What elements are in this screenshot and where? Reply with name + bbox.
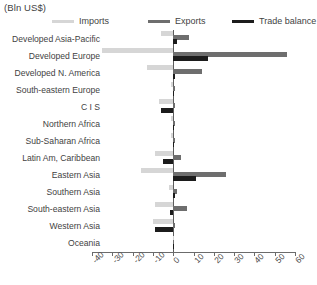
bar-imports xyxy=(153,219,173,224)
legend-item-trade-balance: Trade balance xyxy=(232,14,316,28)
bar-row xyxy=(92,150,317,167)
category-label: Sub-Saharan Africa xyxy=(0,136,100,146)
bar-row xyxy=(92,64,317,81)
bar-trade-balance xyxy=(173,125,174,130)
category-label: Developed N. America xyxy=(0,68,100,78)
x-axis-tick-label: 0 xyxy=(171,255,181,265)
legend-swatch-icon xyxy=(52,20,74,23)
bar-row xyxy=(92,47,317,64)
bar-row xyxy=(92,132,317,149)
bar-exports xyxy=(173,103,175,108)
bar-row xyxy=(92,218,317,235)
legend-label: Trade balance xyxy=(259,16,316,26)
category-label: Oceania xyxy=(0,238,100,248)
chart-legend: ImportsExportsTrade balance xyxy=(52,14,314,28)
category-label: Western Asia xyxy=(0,221,100,231)
bar-row xyxy=(92,30,317,47)
bar-trade-balance xyxy=(173,56,208,61)
bar-trade-balance xyxy=(173,39,177,44)
bar-trade-balance xyxy=(173,193,175,198)
trade-balance-chart: (Bln US$) ImportsExportsTrade balance De… xyxy=(0,0,317,285)
legend-swatch-icon xyxy=(148,20,170,23)
category-label: Developed Europe xyxy=(0,51,100,61)
category-label: Northern Africa xyxy=(0,119,100,129)
bar-trade-balance xyxy=(173,74,175,79)
bar-imports xyxy=(155,202,173,207)
bar-row xyxy=(92,98,317,115)
bar-trade-balance xyxy=(161,108,173,113)
legend-swatch-icon xyxy=(232,20,254,23)
bar-trade-balance xyxy=(163,159,173,164)
legend-item-exports: Exports xyxy=(148,14,206,28)
category-label: Eastern Asia xyxy=(0,170,100,180)
category-label: Developed Asia-Pacific xyxy=(0,34,100,44)
bar-row xyxy=(92,115,317,132)
bar-exports xyxy=(173,206,187,211)
bar-imports xyxy=(147,65,173,70)
bar-imports xyxy=(141,168,173,173)
bar-row xyxy=(92,184,317,201)
bar-row xyxy=(92,167,317,184)
bar-imports xyxy=(159,99,173,104)
bar-exports xyxy=(173,155,181,160)
bars-area xyxy=(92,30,317,252)
legend-label: Imports xyxy=(79,16,109,26)
legend-item-imports: Imports xyxy=(52,14,109,28)
bar-trade-balance xyxy=(170,210,173,215)
bar-exports xyxy=(173,69,201,74)
category-label: C I S xyxy=(0,102,100,112)
bar-imports xyxy=(155,151,173,156)
bar-imports xyxy=(102,48,173,53)
bar-trade-balance xyxy=(173,142,174,147)
bar-trade-balance xyxy=(173,91,174,96)
category-label: South-eastern Asia xyxy=(0,204,100,214)
category-label: South-eastern Europe xyxy=(0,85,100,95)
bar-trade-balance xyxy=(173,176,195,181)
x-axis: -40-30-20-100102030405060 xyxy=(92,252,317,285)
category-label: Latin Am, Caribbean xyxy=(0,153,100,163)
bar-trade-balance xyxy=(173,244,174,249)
bar-exports xyxy=(173,223,175,228)
bar-row xyxy=(92,201,317,218)
bar-row xyxy=(92,235,317,252)
category-label: Southern Asia xyxy=(0,187,100,197)
bar-row xyxy=(92,81,317,98)
axis-unit-label: (Bln US$) xyxy=(4,2,46,13)
category-labels: Developed Asia-PacificDeveloped EuropeDe… xyxy=(0,30,100,252)
plot-area: Developed Asia-PacificDeveloped EuropeDe… xyxy=(0,30,317,252)
bar-imports xyxy=(161,31,173,36)
bar-trade-balance xyxy=(155,227,173,232)
legend-label: Exports xyxy=(175,16,206,26)
